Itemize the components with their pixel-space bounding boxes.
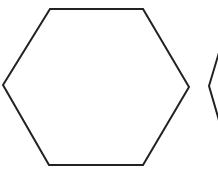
partial-hexagon-shape [209, 9, 218, 165]
diagram-canvas [0, 0, 218, 187]
hexagon-shape [3, 9, 189, 165]
